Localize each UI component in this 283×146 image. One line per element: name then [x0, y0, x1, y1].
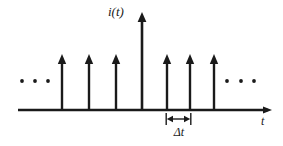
delta-t-right-arrowhead	[184, 116, 190, 122]
impulse-arrowhead	[163, 54, 171, 64]
ellipsis-dot	[252, 79, 256, 83]
impulse-arrow	[210, 54, 218, 110]
right-ellipsis	[225, 79, 256, 83]
impulse-train-figure: i(t) t Δt	[0, 0, 283, 146]
horizontal-axis	[18, 106, 272, 113]
impulse-arrow	[58, 54, 66, 110]
horizontal-axis-label: t	[261, 115, 264, 127]
ellipsis-dot	[225, 79, 229, 83]
impulse-arrowhead	[85, 54, 93, 64]
delta-t-dimension	[166, 113, 191, 125]
delta-t-label: Δt	[167, 126, 191, 138]
left-ellipsis	[20, 79, 50, 83]
i-axis-arrowhead	[138, 12, 147, 22]
ellipsis-dot	[20, 79, 24, 83]
impulse-arrowhead	[112, 54, 120, 64]
t-axis-arrowhead	[263, 106, 272, 113]
impulse-arrowhead	[210, 54, 218, 64]
impulse-arrow	[112, 54, 120, 110]
ellipsis-dot	[33, 79, 37, 83]
vertical-axis-label: i(t)	[108, 5, 124, 18]
ellipsis-dot	[46, 79, 50, 83]
impulse-arrowhead	[186, 54, 194, 64]
delta-t-left-arrowhead	[167, 116, 173, 122]
impulse-arrow	[163, 54, 171, 110]
impulse-arrow	[186, 54, 194, 110]
vertical-axis	[138, 12, 147, 110]
impulse-arrowhead	[58, 54, 66, 64]
ellipsis-dot	[239, 79, 243, 83]
impulse-arrow	[85, 54, 93, 110]
figure-canvas	[0, 0, 283, 146]
